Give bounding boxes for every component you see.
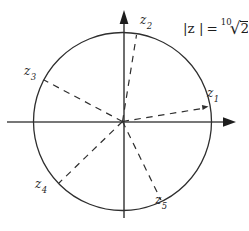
z3-base: z [24, 64, 30, 78]
modulus-lhs: |z | [183, 22, 204, 36]
point-label-z3: z3 [24, 65, 36, 80]
x-axis-arrow-icon [223, 117, 236, 126]
modulus-formula: |z | = 10 √ 2 [183, 20, 248, 37]
z5-subscript: 5 [162, 201, 167, 211]
z1-base: z [207, 86, 213, 100]
radical-sign: √ [230, 20, 241, 37]
point-label-z1: z1 [207, 87, 219, 102]
z1-subscript: 1 [214, 94, 219, 104]
dashed-radius-z1-arrow-icon [202, 105, 209, 110]
equals-sign: = [207, 22, 218, 36]
z2-base: z [140, 13, 146, 27]
z3-subscript: 3 [31, 72, 36, 82]
point-label-z4: z4 [35, 178, 47, 193]
y-axis-arrow-icon [120, 10, 129, 24]
z4-subscript: 4 [42, 185, 47, 195]
point-label-z2: z2 [140, 14, 152, 29]
z5-base: z [155, 193, 161, 207]
dashed-radius-z5 [123, 122, 162, 201]
dashed-radius-z4 [59, 122, 123, 184]
roots-of-unity-diagram: z1 z2 z3 z4 z5 |z | = 10 √ 2 [0, 0, 248, 231]
z4-base: z [35, 177, 41, 191]
dashed-radius-z3 [44, 80, 123, 122]
dashed-radius-z1 [123, 109, 203, 122]
point-label-z5: z5 [155, 194, 167, 209]
z2-subscript: 2 [147, 21, 152, 31]
radicand: 2 [240, 21, 249, 36]
